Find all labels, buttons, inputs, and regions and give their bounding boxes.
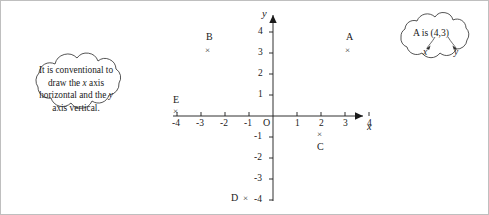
convention-note-text: It is conventional to draw the x axis ho… [29, 64, 123, 114]
point-marker-b: × [205, 46, 210, 55]
y-tick-label--1: -1 [254, 132, 262, 142]
point-label-b: B [206, 32, 213, 42]
convention-note-line-2-post: axis [87, 78, 104, 88]
point-marker-a: × [345, 46, 350, 55]
x-axis-arrowhead [355, 112, 363, 119]
point-label-e: E [173, 95, 179, 105]
convention-note-y-italic: y [109, 90, 113, 100]
coordinate-plane-figure: -4 -3 -2 -1 1 2 3 4 O 4 3 2 1 -1 -2 -3 -… [0, 0, 489, 215]
x-tick-label-3: 3 [343, 119, 348, 129]
point-label-a: A [346, 32, 353, 42]
x-tick-label--4: -4 [172, 119, 180, 129]
y-tick-label--3: -3 [254, 174, 262, 184]
origin-label: O [263, 118, 270, 128]
convention-note-line-1: It is conventional to [29, 64, 123, 77]
x-tick-label--1: -1 [244, 119, 252, 129]
convention-note-line-4: axis vertical. [29, 102, 123, 115]
y-axis-label: y [262, 9, 267, 20]
y-tick-label--4: -4 [254, 195, 262, 205]
convention-note-line-3: horizontal and the y [29, 89, 123, 102]
convention-note-line-2: draw the x axis [29, 77, 123, 90]
y-tick-label-3: 3 [258, 48, 263, 58]
point-marker-d: × [243, 194, 248, 203]
y-tick-label-2: 2 [258, 69, 263, 79]
coordinate-callout-y-caption: y [454, 48, 458, 58]
y-tick-label-1: 1 [258, 90, 263, 100]
x-tick-label-2: 2 [319, 119, 324, 129]
x-tick-label--2: -2 [220, 119, 228, 129]
coordinate-callout-x-caption: x [423, 48, 427, 58]
x-axis-label: x [367, 122, 372, 133]
coordinate-callout-statement: A is (4,3) [413, 28, 449, 38]
y-tick-label-4: 4 [258, 27, 263, 37]
y-axis-arrowhead [269, 15, 276, 23]
point-marker-e: × [173, 107, 178, 116]
x-tick-label--3: -3 [196, 119, 204, 129]
x-tick-label-1: 1 [295, 119, 300, 129]
point-label-c: C [317, 142, 324, 152]
right-cloud-leader-arrows [427, 37, 456, 48]
convention-note-line-2-pre: draw the [48, 78, 83, 88]
y-tick-label--2: -2 [254, 153, 262, 163]
point-marker-c: × [317, 130, 322, 139]
convention-note-line-3-pre: horizontal and the [39, 90, 108, 100]
point-label-d: D [231, 193, 238, 203]
